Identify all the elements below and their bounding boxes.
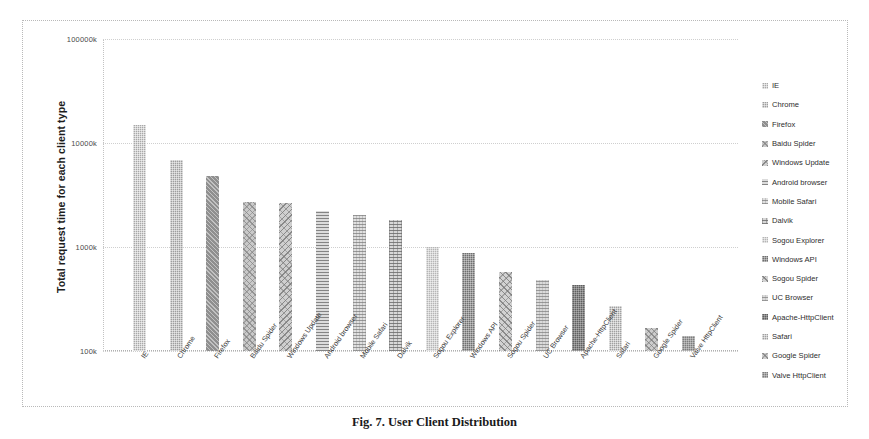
legend-item-label: Valve HttpClient <box>772 371 826 380</box>
bar <box>353 215 366 351</box>
legend-item-label: Sogou Spider <box>772 274 818 283</box>
legend-item: Sogou Explorer <box>762 230 869 249</box>
legend-item: Firefox <box>762 115 869 134</box>
bar <box>426 247 439 351</box>
legend-swatch-icon <box>762 314 768 320</box>
legend-item: Google Spider <box>762 346 869 365</box>
legend-item-label: Safari <box>772 332 792 341</box>
legend-swatch-icon <box>762 372 768 378</box>
legend-item: UC Browser <box>762 288 869 307</box>
legend-swatch-icon <box>762 179 768 185</box>
x-axis-tick-label: IE <box>139 349 150 360</box>
bar <box>499 272 512 351</box>
plot-area: 100000k10000k1000k100k IEChromeFirefoxBa… <box>103 39 738 351</box>
bar <box>462 253 475 351</box>
y-axis-tick-label: 1000k <box>76 243 97 252</box>
legend-item-label: Dalvik <box>772 216 793 225</box>
legend-swatch-icon <box>762 121 768 127</box>
legend-item: Apache-HttpClient <box>762 308 869 327</box>
figure-root: Total request time for each client type … <box>0 0 869 439</box>
legend-swatch-icon <box>762 237 768 243</box>
legend-item-label: Baidu Spider <box>772 139 815 148</box>
bar <box>572 285 585 351</box>
legend-swatch-icon <box>762 102 768 108</box>
legend-swatch-icon <box>762 353 768 359</box>
bar <box>316 211 329 351</box>
legend-item-label: Mobile Safari <box>772 197 816 206</box>
legend-swatch-icon <box>762 83 768 89</box>
legend-item-label: Windows Update <box>772 158 829 167</box>
bar <box>536 280 549 351</box>
bar-series <box>103 39 738 351</box>
legend-swatch-icon <box>762 141 768 147</box>
legend-item: Baidu Spider <box>762 134 869 153</box>
legend-item: Valve HttpClient <box>762 365 869 384</box>
legend-swatch-icon <box>762 295 768 301</box>
x-axis-labels: IEChromeFirefoxBaidu SpiderWindows Updat… <box>103 351 738 421</box>
legend-item-label: Google Spider <box>772 351 821 360</box>
legend-swatch-icon <box>762 276 768 282</box>
legend-item-label: Firefox <box>772 120 795 129</box>
legend-swatch-icon <box>762 256 768 262</box>
legend-item-label: Windows API <box>772 255 817 264</box>
legend-item-label: UC Browser <box>772 293 813 302</box>
legend-item: Windows Update <box>762 153 869 172</box>
bar <box>389 220 402 351</box>
legend-item-label: Sogou Explorer <box>772 236 824 245</box>
bar <box>206 176 219 351</box>
figure-caption: Fig. 7. User Client Distribution <box>0 415 869 430</box>
bar <box>133 125 146 351</box>
legend-item: Mobile Safari <box>762 192 869 211</box>
legend-item-label: Chrome <box>772 100 799 109</box>
legend-swatch-icon <box>762 218 768 224</box>
legend-item: Safari <box>762 327 869 346</box>
legend-item: Sogou Spider <box>762 269 869 288</box>
legend-item-label: Android browser <box>772 178 827 187</box>
legend-item-label: IE <box>772 81 779 90</box>
legend-swatch-icon <box>762 160 768 166</box>
legend-item: Dalvik <box>762 211 869 230</box>
bar <box>243 202 256 351</box>
y-axis-tick-label: 100000k <box>67 35 97 44</box>
chart-frame: Total request time for each client type … <box>22 20 848 407</box>
legend-item: IE <box>762 76 869 95</box>
y-axis-title-text: Total request time for each client type <box>55 101 67 293</box>
y-axis-title: Total request time for each client type <box>51 67 71 327</box>
legend-item: Chrome <box>762 95 869 114</box>
legend-swatch-icon <box>762 198 768 204</box>
bar <box>279 203 292 351</box>
legend-item: Android browser <box>762 172 869 191</box>
bar <box>170 160 183 351</box>
legend-item: Windows API <box>762 250 869 269</box>
legend: IEChromeFirefoxBaidu SpiderWindows Updat… <box>762 76 869 385</box>
y-axis-tick-label: 10000k <box>71 139 97 148</box>
legend-swatch-icon <box>762 334 768 340</box>
y-axis-tick-label: 100k <box>80 347 97 356</box>
legend-item-label: Apache-HttpClient <box>772 313 834 322</box>
